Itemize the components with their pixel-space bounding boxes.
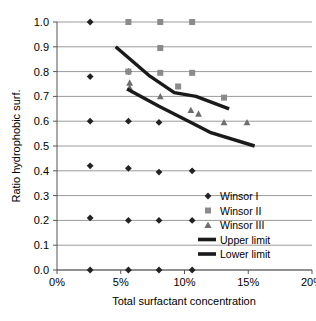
- legend-label-upper-limit: Upper limit: [220, 234, 270, 246]
- legend-label-winsor-iii: Winsor III: [220, 219, 264, 231]
- y-tick-label-0.1: 0.1: [34, 239, 49, 251]
- y-tick-label-0.9: 0.9: [34, 41, 49, 53]
- data-point-winsor-ii-6: [189, 70, 195, 76]
- x-tick-label-0%: 0%: [49, 276, 65, 288]
- y-tick-label-0.0: 0.0: [34, 264, 49, 276]
- chart-container: 0.00.10.20.30.40.50.60.70.80.91.0 0%5%10…: [0, 0, 316, 321]
- legend-label-winsor-i: Winsor I: [220, 190, 259, 202]
- data-point-winsor-ii-3: [157, 45, 163, 51]
- data-point-winsor-ii-5: [157, 70, 163, 76]
- data-point-winsor-ii-4: [125, 69, 131, 75]
- y-tick-label-0.2: 0.2: [34, 214, 49, 226]
- y-tick-label-0.4: 0.4: [34, 165, 49, 177]
- data-point-winsor-ii-1: [157, 19, 163, 25]
- y-tick-label-0.3: 0.3: [34, 190, 49, 202]
- data-point-winsor-ii-7: [175, 83, 181, 89]
- data-point-winsor-ii-2: [189, 19, 195, 25]
- y-axis-title: Ratio hydrophobic surf.: [10, 89, 22, 202]
- x-tick-label-20%: 20%: [301, 276, 316, 288]
- legend-marker-winsor-ii: [205, 208, 211, 214]
- y-tick-label-0.6: 0.6: [34, 115, 49, 127]
- x-tick-label-15%: 15%: [237, 276, 259, 288]
- y-tick-label-0.8: 0.8: [34, 66, 49, 78]
- x-tick-label-10%: 10%: [173, 276, 195, 288]
- x-tick-label-5%: 5%: [113, 276, 129, 288]
- y-tick-label-1.0: 1.0: [34, 16, 49, 28]
- data-point-winsor-ii-0: [125, 19, 131, 25]
- legend-label-winsor-ii: Winsor II: [220, 205, 261, 217]
- ratio-hydrophobic-surface-scatter-chart: 0.00.10.20.30.40.50.60.70.80.91.0 0%5%10…: [0, 0, 316, 321]
- y-tick-label-0.5: 0.5: [34, 140, 49, 152]
- x-axis-title: Total surfactant concentration: [112, 295, 256, 307]
- y-tick-label-0.7: 0.7: [34, 90, 49, 102]
- data-point-winsor-ii-8: [221, 95, 227, 101]
- legend-label-lower-limit: Lower limit: [220, 248, 270, 260]
